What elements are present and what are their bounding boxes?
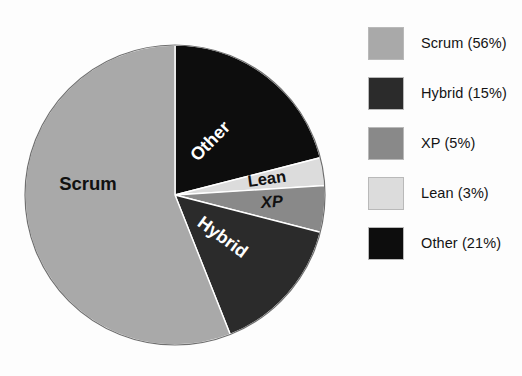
legend-label-xp: XP (5%) xyxy=(421,135,475,151)
legend-label-scrum: Scrum (56%) xyxy=(421,35,507,51)
legend-swatch-hybrid xyxy=(368,77,404,110)
chart-legend: Scrum (56%) Hybrid (15%) XP (5%) Lean (3… xyxy=(368,18,518,268)
pie-chart-figure: Scrum Other Lean XP Hybrid Scrum (56%) H… xyxy=(0,0,522,376)
pie-chart-area: Scrum Other Lean XP Hybrid xyxy=(0,0,350,376)
legend-label-lean: Lean (3%) xyxy=(421,185,489,201)
legend-item-xp: XP (5%) xyxy=(368,118,518,168)
legend-item-lean: Lean (3%) xyxy=(368,168,518,218)
legend-swatch-xp xyxy=(368,127,404,160)
legend-label-other: Other (21%) xyxy=(421,235,501,251)
legend-item-other: Other (21%) xyxy=(368,218,518,268)
legend-item-scrum: Scrum (56%) xyxy=(368,18,518,68)
legend-item-hybrid: Hybrid (15%) xyxy=(368,68,518,118)
legend-swatch-scrum xyxy=(368,27,404,60)
slice-label-xp: XP xyxy=(259,192,284,212)
pie-chart-svg: Scrum Other Lean XP Hybrid xyxy=(0,0,350,376)
legend-label-hybrid: Hybrid (15%) xyxy=(421,85,507,101)
legend-swatch-other xyxy=(368,227,404,260)
slice-label-scrum: Scrum xyxy=(59,173,117,194)
legend-swatch-lean xyxy=(368,177,404,210)
